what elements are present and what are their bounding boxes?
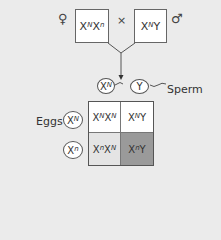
allele-sup: N bbox=[111, 112, 116, 120]
punnett-cell-affected: XnY bbox=[121, 133, 153, 165]
allele-sup: N bbox=[135, 112, 140, 120]
allele-base: X bbox=[67, 145, 74, 156]
allele-base: X bbox=[105, 112, 112, 123]
allele-base: X bbox=[104, 144, 111, 155]
allele-sup: N bbox=[99, 112, 104, 120]
sperm-gamete-xn: XN bbox=[97, 78, 115, 94]
allele-sup: N bbox=[107, 81, 112, 89]
allele-base: X bbox=[128, 112, 135, 123]
allele-base: Y bbox=[136, 81, 142, 92]
allele-base: X bbox=[128, 144, 135, 155]
egg-gamete-xn-recessive: Xn bbox=[63, 141, 83, 159]
allele-base: Y bbox=[140, 112, 146, 123]
punnett-square: XNXN XNY XnXN XnY bbox=[88, 101, 154, 166]
eggs-label: Eggs bbox=[36, 115, 63, 128]
punnett-cell: XnXN bbox=[89, 133, 121, 165]
allele-base: Y bbox=[140, 144, 146, 155]
allele-base: X bbox=[93, 144, 100, 155]
allele-sup: n bbox=[74, 145, 78, 153]
allele-base: X bbox=[100, 81, 107, 92]
sperm-gamete-y: Y bbox=[130, 79, 149, 94]
allele-base: X bbox=[67, 115, 74, 126]
allele-sup: n bbox=[135, 144, 139, 152]
allele-base: X bbox=[92, 112, 99, 123]
egg-gamete-xn-dominant: XN bbox=[63, 111, 83, 129]
sperm-label: Sperm bbox=[167, 83, 203, 96]
allele-sup: N bbox=[111, 144, 116, 152]
punnett-cell: XNXN bbox=[89, 102, 121, 133]
allele-sup: N bbox=[74, 115, 79, 123]
punnett-cell: XNY bbox=[121, 102, 153, 133]
allele-sup: n bbox=[100, 144, 104, 152]
